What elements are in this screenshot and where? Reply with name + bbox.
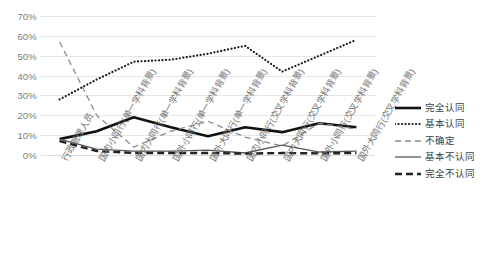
y-axis: 70%60%50%40%30%20%10%0%	[0, 0, 40, 165]
line-chart: 70%60%50%40%30%20%10%0% 行政管理人员国内小同行(单一学科…	[0, 0, 486, 271]
legend-key-icon	[395, 168, 421, 180]
legend-key-icon	[395, 135, 421, 147]
legend-item[interactable]: 不确定	[395, 133, 486, 148]
y-axis-tick-label: 60%	[17, 30, 37, 41]
legend-key-icon	[395, 118, 421, 130]
legend-label: 基本认同	[425, 118, 465, 130]
legend-key-icon	[395, 102, 421, 114]
chart-legend: 完全认同基本认同不确定基本不认同完全不认同	[395, 100, 486, 183]
legend-label: 完全不认同	[425, 168, 475, 180]
y-axis-tick-label: 20%	[17, 110, 37, 121]
legend-label: 完全认同	[425, 102, 465, 114]
y-axis-tick-label: 40%	[17, 70, 37, 81]
legend-item[interactable]: 完全认同	[395, 100, 486, 115]
y-axis-tick-label: 50%	[17, 50, 37, 61]
legend-item[interactable]: 基本认同	[395, 117, 486, 132]
y-axis-tick-label: 10%	[17, 130, 37, 141]
legend-item[interactable]: 基本不认同	[395, 150, 486, 165]
legend-label: 基本不认同	[425, 151, 475, 163]
legend-item[interactable]: 完全不认同	[395, 166, 486, 181]
y-axis-tick-label: 70%	[17, 11, 37, 22]
y-axis-tick-label: 30%	[17, 90, 37, 101]
legend-key-icon	[395, 151, 421, 163]
legend-label: 不确定	[425, 135, 455, 147]
